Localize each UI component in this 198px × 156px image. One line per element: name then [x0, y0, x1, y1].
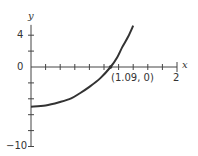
- root-marker: [109, 65, 113, 69]
- root-annotation: (1.09, 0): [111, 72, 154, 83]
- y-tick-label-0: 0: [17, 61, 23, 72]
- y-tick-label-4: 4: [17, 29, 23, 40]
- x-axis-label: x: [182, 59, 188, 70]
- y-axis-label: y: [28, 10, 34, 21]
- axes: [28, 25, 177, 147]
- function-curve: [31, 26, 133, 107]
- plot-area: [0, 0, 198, 156]
- y-tick-label-neg10: −10: [6, 140, 27, 151]
- x-tick-label-2: 2: [173, 72, 179, 83]
